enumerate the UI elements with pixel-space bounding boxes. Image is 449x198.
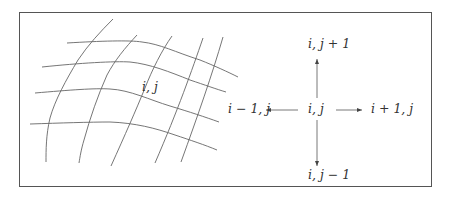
grid-cell-label: i, j [142,80,158,94]
grid-line-v2 [79,35,137,163]
stencil-south-label: i, j − 1 [308,168,350,182]
grid-line-v4 [155,38,203,163]
grid-line-v1 [46,19,113,162]
grid-line-h2 [42,62,226,92]
grid-line-h3 [35,89,219,122]
stencil-north-label: i, j + 1 [308,37,350,51]
grid-and-arrows [0,0,449,198]
stencil-east-label: i + 1, j [371,102,413,116]
stencil-figure: i, j i, j i, j + 1 i, j − 1 i − 1, j i +… [0,0,449,198]
stencil-west-label: i − 1, j [228,102,270,116]
curvilinear-grid [30,19,238,166]
stencil-center-label: i, j [308,102,324,116]
grid-line-h4 [30,122,217,150]
